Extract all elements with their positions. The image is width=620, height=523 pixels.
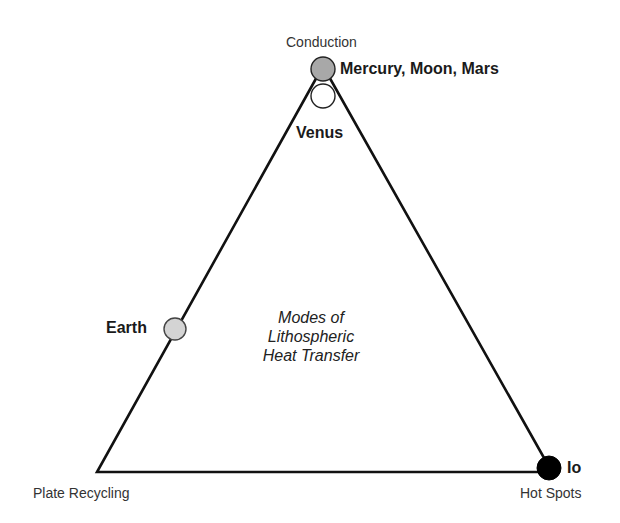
label-io: Io <box>567 459 581 477</box>
label-earth: Earth <box>106 319 147 337</box>
label-mercury-moon-mars: Mercury, Moon, Mars <box>340 60 499 78</box>
vertex-label-hot-spots: Hot Spots <box>520 485 581 501</box>
earth-marker <box>164 318 186 340</box>
vertex-label-plate-recycling: Plate Recycling <box>33 485 130 501</box>
diagram-title-line-1: Modes of <box>248 308 374 327</box>
vertex-label-conduction: Conduction <box>286 34 357 50</box>
venus-marker <box>311 84 335 108</box>
ternary-triangle-diagram <box>0 0 620 523</box>
diagram-title-line-2: Lithospheric <box>248 327 374 346</box>
diagram-title-line-3: Heat Transfer <box>248 346 374 365</box>
label-venus: Venus <box>296 124 343 142</box>
io-marker <box>537 456 561 480</box>
diagram-title: Modes of Lithospheric Heat Transfer <box>248 308 374 365</box>
mercury-moon-mars-marker <box>311 57 335 81</box>
